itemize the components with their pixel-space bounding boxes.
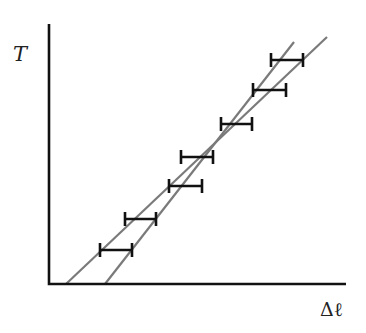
error-bar	[253, 83, 286, 97]
shallow-fit-line	[66, 37, 327, 284]
chart: T Δℓ	[0, 0, 366, 333]
steep-fit-line	[105, 42, 294, 284]
y-axis-label: T	[13, 42, 29, 66]
fit-lines	[66, 37, 327, 284]
axis-lines	[49, 24, 346, 284]
axes	[49, 24, 346, 284]
x-axis-label: Δℓ	[320, 298, 343, 320]
